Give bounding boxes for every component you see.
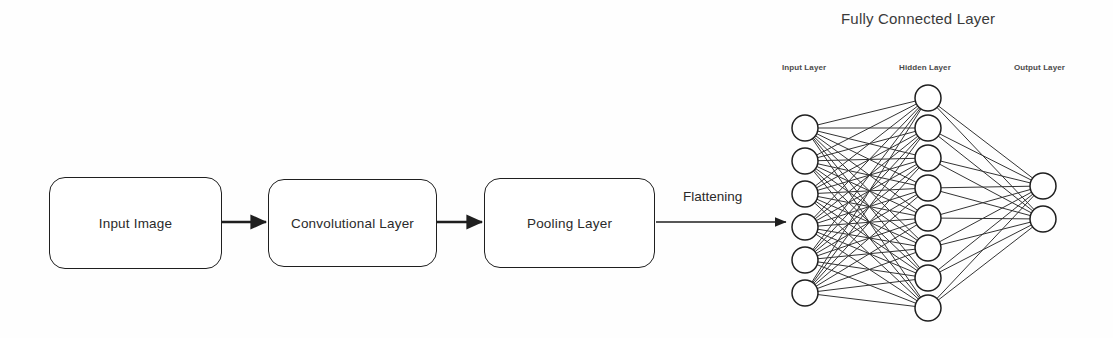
fully-connected-title: Fully Connected Layer — [841, 10, 995, 27]
node-hidden-layer-1[interactable] — [915, 85, 941, 111]
input-layer-caption: Input Layer — [782, 63, 826, 72]
network-edge — [937, 195, 1034, 298]
network-edge — [818, 131, 916, 157]
node-hidden-layer-7[interactable] — [915, 265, 941, 291]
network-edge — [817, 104, 917, 155]
network-edge — [939, 192, 1031, 242]
node-output-layer-2[interactable] — [1030, 206, 1056, 232]
stage-box-label: Pooling Layer — [527, 216, 612, 231]
network-edge — [814, 107, 919, 217]
stage-box-label: Input Image — [99, 216, 173, 231]
network-edge — [941, 186, 1030, 188]
node-hidden-layer-5[interactable] — [915, 205, 941, 231]
node-input-layer-6[interactable] — [792, 280, 818, 306]
node-hidden-layer-4[interactable] — [915, 175, 941, 201]
network-edge — [817, 162, 915, 191]
node-input-layer-2[interactable] — [792, 148, 818, 174]
node-input-layer-1[interactable] — [792, 115, 818, 141]
hidden-layer-caption: Hidden Layer — [899, 63, 951, 72]
output-layer-caption: Output Layer — [1014, 63, 1065, 72]
diagram-canvas: Input ImageConvolutional LayerPooling La… — [0, 0, 1113, 338]
node-input-layer-4[interactable] — [792, 214, 818, 240]
stage-box-input-image[interactable]: Input Image — [49, 177, 222, 269]
stage-box-convolutional-layer[interactable]: Convolutional Layer — [268, 179, 437, 267]
stage-box-pooling-layer[interactable]: Pooling Layer — [484, 178, 655, 268]
network-edge — [941, 218, 1030, 219]
network-edge — [818, 295, 915, 307]
network-edge — [941, 189, 1031, 214]
node-hidden-layer-6[interactable] — [915, 235, 941, 261]
node-input-layer-5[interactable] — [792, 247, 818, 273]
network-graphics — [0, 0, 1113, 338]
network-nodes — [792, 85, 1056, 321]
node-output-layer-1[interactable] — [1030, 173, 1056, 199]
node-hidden-layer-2[interactable] — [915, 115, 941, 141]
network-edge — [938, 106, 1032, 178]
flattening-label: Flattening — [683, 189, 742, 204]
network-edge — [938, 227, 1032, 300]
stage-box-label: Convolutional Layer — [291, 216, 414, 231]
network-edge — [816, 201, 918, 270]
network-edge — [941, 191, 1031, 215]
node-hidden-layer-8[interactable] — [915, 295, 941, 321]
node-input-layer-3[interactable] — [792, 181, 818, 207]
network-edge — [939, 164, 1031, 213]
node-hidden-layer-3[interactable] — [915, 145, 941, 171]
network-edge — [818, 158, 915, 160]
network-edge — [818, 101, 916, 125]
